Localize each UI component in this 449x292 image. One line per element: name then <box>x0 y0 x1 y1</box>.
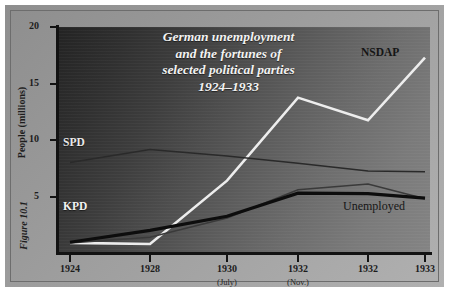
y-tick-mark <box>50 26 59 28</box>
x-tick-label: 1924 <box>35 263 105 274</box>
series-label-nsdap: NSDAP <box>361 46 399 58</box>
y-tick-label: 15 <box>0 77 39 88</box>
series-line-spd <box>70 150 425 172</box>
y-tick-mark <box>50 196 59 198</box>
figure-card: People (millions) German unemploymentand… <box>0 0 449 292</box>
x-tick-label: 1933 <box>390 263 449 274</box>
x-tick-mark <box>149 254 151 262</box>
x-tick-mark <box>367 254 369 262</box>
x-tick-mark <box>226 254 228 262</box>
x-tick-label: 1932 <box>263 263 333 274</box>
series-line-nsdap <box>70 58 425 244</box>
series-label-spd: SPD <box>63 136 85 148</box>
y-tick-mark <box>50 139 59 141</box>
y-tick-label: 20 <box>0 20 39 31</box>
y-tick-label: 5 <box>0 190 39 201</box>
x-tick-sublabel: (Nov.) <box>263 277 333 287</box>
x-tick-sublabel: (July) <box>192 277 262 287</box>
series-label-kpd: KPD <box>63 200 87 212</box>
x-tick-mark <box>424 254 426 262</box>
x-tick-label: 1928 <box>115 263 185 274</box>
y-tick-mark <box>50 83 59 85</box>
x-tick-mark <box>69 254 71 262</box>
x-tick-label: 1930 <box>192 263 262 274</box>
x-tick-mark <box>297 254 299 262</box>
series-label-unemployed: Unemployed <box>343 199 405 214</box>
y-tick-label: 10 <box>0 133 39 144</box>
